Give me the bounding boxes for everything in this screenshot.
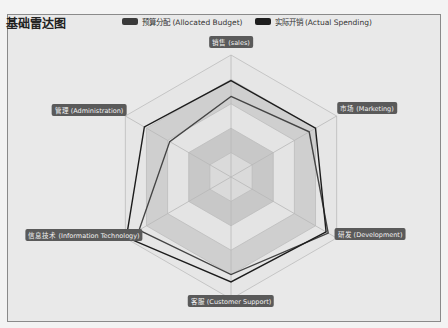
radar-chart	[0, 0, 448, 328]
axis-label: 市场 (Marketing)	[337, 102, 397, 114]
axis-label: 研发 (Development)	[335, 228, 406, 240]
axis-label: 客服 (Customer Support)	[188, 295, 274, 307]
axis-label: 管理 (Administration)	[52, 104, 127, 116]
axis-label: 信息技术 (Information Technology)	[25, 229, 142, 241]
axis-label: 销售 (sales)	[209, 36, 253, 48]
